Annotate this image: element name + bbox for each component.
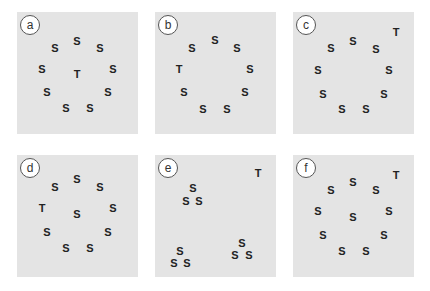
distractor-letter: S (195, 196, 202, 207)
panel-label: c (296, 15, 316, 35)
distractor-letter: S (104, 87, 111, 98)
distractor-letter: S (380, 89, 387, 100)
distractor-letter: S (104, 227, 111, 238)
distractor-letter: S (109, 203, 116, 214)
distractor-letter: S (189, 183, 196, 194)
panel-label: d (20, 158, 40, 178)
panel-e: eTSSSSSSSSS (155, 155, 276, 277)
panel-f: fTSSSSSSSSSS (293, 155, 414, 277)
distractor-letter: S (183, 258, 190, 269)
distractor-letter: S (245, 250, 252, 261)
distractor-letter: S (182, 196, 189, 207)
distractor-letter: S (211, 35, 218, 46)
distractor-letter: S (380, 230, 387, 241)
distractor-letter: S (188, 43, 195, 54)
panel-label: b (158, 15, 178, 35)
distractor-letter: S (338, 104, 345, 115)
panel-a: aSSSSTSSSSS (17, 12, 138, 134)
target-letter: T (393, 170, 400, 181)
distractor-letter: S (86, 243, 93, 254)
distractor-letter: S (73, 209, 80, 220)
distractor-letter: S (349, 212, 356, 223)
distractor-letter: S (51, 43, 58, 54)
distractor-letter: S (314, 206, 321, 217)
distractor-letter: S (62, 243, 69, 254)
panel-label: f (296, 158, 316, 178)
distractor-letter: S (314, 65, 321, 76)
distractor-letter: S (231, 250, 238, 261)
distractor-letter: S (349, 177, 356, 188)
distractor-letter: S (180, 87, 187, 98)
distractor-letter: S (223, 104, 230, 115)
distractor-letter: S (241, 87, 248, 98)
distractor-letter: S (73, 36, 80, 47)
panel-b: bSSSTSSSSS (155, 12, 276, 134)
target-letter: T (393, 27, 400, 38)
distractor-letter: S (319, 89, 326, 100)
target-letter: T (176, 64, 183, 75)
distractor-letter: S (385, 206, 392, 217)
distractor-letter: S (96, 43, 103, 54)
distractor-letter: S (176, 246, 183, 257)
distractor-letter: S (338, 246, 345, 257)
panel-d: dSSSTSSSSSS (17, 155, 138, 277)
distractor-letter: S (362, 104, 369, 115)
distractor-letter: S (327, 185, 334, 196)
distractor-letter: S (319, 230, 326, 241)
distractor-letter: S (38, 64, 45, 75)
distractor-letter: S (51, 182, 58, 193)
distractor-letter: S (43, 227, 50, 238)
panel-c: cTSSSSSSSSS (293, 12, 414, 134)
distractor-letter: S (86, 103, 93, 114)
target-letter: T (74, 69, 81, 80)
distractor-letter: S (170, 258, 177, 269)
target-letter: T (255, 168, 262, 179)
distractor-letter: S (233, 43, 240, 54)
distractor-letter: S (238, 238, 245, 249)
distractor-letter: S (372, 185, 379, 196)
distractor-letter: S (349, 36, 356, 47)
distractor-letter: S (372, 44, 379, 55)
distractor-letter: S (385, 65, 392, 76)
distractor-letter: S (362, 246, 369, 257)
distractor-letter: S (43, 87, 50, 98)
panel-label: a (20, 15, 40, 35)
distractor-letter: S (246, 64, 253, 75)
distractor-letter: S (199, 104, 206, 115)
distractor-letter: S (96, 182, 103, 193)
target-letter: T (39, 203, 46, 214)
distractor-letter: S (109, 64, 116, 75)
distractor-letter: S (62, 103, 69, 114)
distractor-letter: S (73, 174, 80, 185)
panel-label: e (158, 158, 178, 178)
distractor-letter: S (327, 43, 334, 54)
